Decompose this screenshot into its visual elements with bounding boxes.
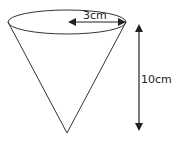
cone-shape bbox=[8, 10, 126, 133]
cone-diagram: 3cm 10cm bbox=[0, 0, 176, 143]
cone-left-side bbox=[8, 22, 67, 133]
cone-right-side bbox=[67, 22, 126, 133]
radius-label: 3cm bbox=[83, 9, 107, 22]
height-label: 10cm bbox=[141, 73, 172, 86]
